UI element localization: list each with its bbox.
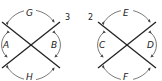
angle-label-c: C xyxy=(99,40,106,50)
line-label-3: 3 xyxy=(65,13,70,22)
angle-label-e: E xyxy=(123,8,129,18)
angle-label-h: H xyxy=(26,72,33,81)
figure-right: 2 E F C D xyxy=(88,8,156,81)
figure-left: G H A B 3 xyxy=(2,8,71,81)
line-label-2: 2 xyxy=(88,13,93,22)
angle-label-b: B xyxy=(51,40,57,50)
angle-label-a: A xyxy=(2,40,9,50)
angle-label-d: D xyxy=(147,40,154,50)
angle-label-g: G xyxy=(26,8,33,18)
intersecting-lines-diagram: G H A B 3 2 E F C D xyxy=(0,0,162,81)
angle-label-f: F xyxy=(123,72,129,81)
